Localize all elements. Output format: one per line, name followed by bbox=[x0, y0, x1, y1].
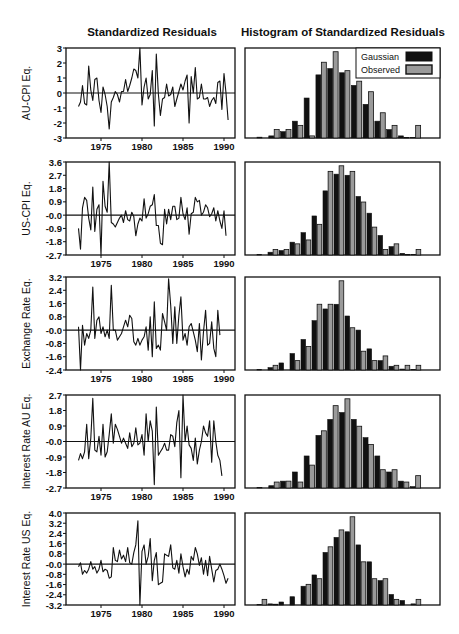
observed-bar bbox=[392, 470, 397, 488]
observed-bar bbox=[350, 517, 355, 605]
gaussian-bar bbox=[292, 472, 297, 488]
x-tick-label: 1985 bbox=[172, 608, 194, 619]
gaussian-bar bbox=[328, 69, 333, 138]
residual-line bbox=[79, 48, 229, 129]
y-tick-label: 0.9 bbox=[49, 421, 62, 432]
y-tick-label: 1.8 bbox=[49, 183, 62, 194]
observed-bar bbox=[328, 547, 333, 605]
observed-bar bbox=[284, 249, 289, 255]
gaussian-bar bbox=[351, 419, 356, 488]
gaussian-bar bbox=[269, 486, 274, 488]
y-tick-label: 3.6 bbox=[49, 157, 62, 168]
observed-bar bbox=[262, 599, 267, 605]
observed-bar bbox=[273, 604, 278, 605]
gaussian-bar bbox=[279, 363, 284, 370]
line-panel-5: 4.03.22.41.60.8-0.0-0.8-1.6-2.4-3.2Inter… bbox=[20, 508, 235, 620]
residual-line bbox=[79, 162, 227, 255]
gaussian-bar bbox=[290, 242, 295, 255]
gaussian-bar bbox=[378, 235, 383, 255]
observed-bar bbox=[383, 356, 388, 370]
gaussian-bar bbox=[378, 361, 383, 370]
x-tick-label: 1990 bbox=[213, 258, 234, 269]
observed-bar bbox=[306, 347, 311, 370]
gaussian-bar bbox=[367, 213, 372, 255]
gaussian-bar bbox=[411, 254, 416, 255]
observed-bar bbox=[369, 92, 374, 138]
line-panel-1: 3210-1-2-3AU-CPI Eq.1975198019851990 bbox=[20, 43, 235, 153]
y-tick-label: 3 bbox=[57, 43, 62, 54]
gaussian-bar bbox=[316, 435, 321, 488]
y-tick-label: -1.8 bbox=[46, 236, 62, 247]
observed-bar bbox=[416, 365, 421, 370]
gaussian-bar bbox=[292, 121, 297, 138]
observed-bar bbox=[383, 249, 388, 255]
legend-observed-swatch bbox=[406, 65, 432, 74]
y-tick-label: -3 bbox=[54, 133, 62, 144]
observed-bar bbox=[306, 584, 311, 605]
histogram-panel-5 bbox=[245, 513, 440, 605]
residual-line bbox=[79, 279, 220, 370]
y-tick-label: 1.6 bbox=[49, 298, 62, 309]
gaussian-bar bbox=[301, 586, 306, 605]
x-tick-label: 1990 bbox=[213, 141, 234, 152]
y-tick-label: -2.7 bbox=[46, 483, 62, 494]
gaussian-bar bbox=[389, 366, 394, 370]
gaussian-bar bbox=[279, 251, 284, 255]
observed-bar bbox=[333, 406, 338, 488]
gaussian-bar bbox=[351, 85, 356, 138]
chart-canvas: 3210-1-2-3AU-CPI Eq.1975198019851990Gaus… bbox=[0, 0, 459, 634]
observed-bar bbox=[317, 579, 322, 605]
y-tick-label: 1 bbox=[57, 73, 63, 84]
observed-bar bbox=[416, 599, 421, 605]
observed-bar bbox=[350, 171, 355, 255]
observed-bar bbox=[372, 361, 377, 370]
x-tick-label: 1985 bbox=[172, 141, 194, 152]
y-tick-label: -1.6 bbox=[46, 351, 62, 362]
observed-bar bbox=[380, 470, 385, 488]
gaussian-bar bbox=[316, 75, 321, 138]
observed-bar bbox=[298, 482, 303, 488]
observed-bar bbox=[339, 166, 344, 255]
gaussian-bar bbox=[345, 532, 350, 605]
observed-bar bbox=[273, 249, 278, 255]
histogram-panel-4 bbox=[245, 395, 440, 488]
y-tick-label: -3.2 bbox=[46, 600, 62, 611]
y-axis-label: US-CPI Eq. bbox=[20, 181, 32, 235]
gaussian-bar bbox=[257, 254, 262, 255]
histogram-legend: GaussianObserved bbox=[356, 48, 440, 78]
observed-bar bbox=[405, 365, 410, 370]
y-tick-label: 1.8 bbox=[49, 405, 62, 416]
line-panel-2: 3.62.71.80.9-0.0-0.9-1.8-2.7US-CPI Eq.19… bbox=[20, 157, 235, 270]
gaussian-bar bbox=[398, 481, 403, 488]
observed-bar bbox=[295, 244, 300, 255]
x-tick-label: 1980 bbox=[131, 373, 152, 384]
gaussian-bar bbox=[290, 597, 295, 605]
gaussian-bar bbox=[400, 369, 405, 370]
x-tick-label: 1975 bbox=[90, 608, 112, 619]
gaussian-bar bbox=[312, 575, 317, 605]
gaussian-bar bbox=[268, 368, 273, 370]
x-tick-label: 1980 bbox=[131, 258, 152, 269]
observed-bar bbox=[286, 130, 291, 138]
x-tick-label: 1980 bbox=[131, 491, 152, 502]
gaussian-bar bbox=[345, 175, 350, 255]
observed-bar bbox=[372, 579, 377, 605]
y-tick-label: -2.4 bbox=[46, 365, 63, 376]
y-tick-label: -0.0 bbox=[46, 210, 62, 221]
residual-line bbox=[79, 395, 222, 485]
y-tick-label: -0.0 bbox=[46, 436, 62, 447]
y-tick-label: -0.9 bbox=[46, 223, 62, 234]
y-axis-label: AU-CPI Eq. bbox=[20, 66, 32, 120]
gaussian-bar bbox=[290, 354, 295, 370]
gaussian-bar bbox=[367, 562, 372, 605]
gaussian-bar bbox=[375, 456, 380, 488]
gaussian-bar bbox=[334, 304, 339, 370]
gaussian-bar bbox=[323, 552, 328, 605]
gaussian-bar bbox=[400, 253, 405, 255]
gaussian-bar bbox=[340, 413, 345, 488]
gaussian-bar bbox=[328, 419, 333, 488]
gaussian-bar bbox=[304, 98, 309, 138]
observed-bar bbox=[416, 125, 421, 138]
legend-gaussian-swatch bbox=[406, 52, 432, 61]
gaussian-bar bbox=[334, 174, 339, 255]
